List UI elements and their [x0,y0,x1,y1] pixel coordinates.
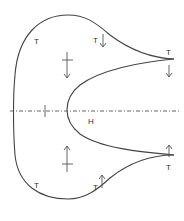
cross-up-arrow-icon [62,146,73,172]
label-t-top-right: T [166,48,171,57]
label-t-bottom-right: T [166,163,171,172]
label-h: H [88,117,94,126]
label-t-top-left: T [34,37,39,46]
diagram-canvas: T T T H T T T [0,0,184,221]
inner-parabola-curve [67,59,174,155]
cross-down-arrow-icon [62,52,73,78]
down-arrow-icon [100,34,106,47]
label-t-bottom-left: T [34,181,39,190]
label-t-top-mid: T [93,36,98,45]
label-t-bottom-mid: T [93,183,98,192]
down-arrow-icon [166,65,172,77]
